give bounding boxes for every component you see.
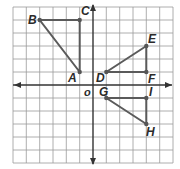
arrow-up-icon [90,4,96,11]
label-H: H [146,125,155,139]
label-E: E [148,32,157,46]
coordinate-plane: B C A D E F G I H O [0,0,180,169]
origin-label: O [84,86,91,98]
arrow-right-icon [165,82,172,88]
arrow-down-icon [90,158,96,165]
label-F: F [148,72,156,86]
point-D [104,70,108,74]
arrow-left-icon [14,82,21,88]
point-I [144,96,148,100]
label-C: C [81,4,90,18]
label-G: G [99,85,108,99]
label-B: B [28,13,37,27]
point-C [78,18,82,22]
label-A: A [67,71,77,85]
label-D: D [96,71,105,85]
label-I: I [149,85,153,99]
point-B [38,18,42,22]
point-A [78,70,82,74]
